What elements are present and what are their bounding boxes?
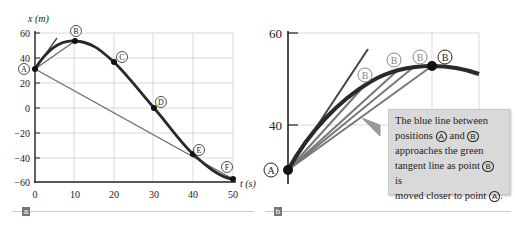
panel-a-rule xyxy=(12,211,254,212)
point-a-dot xyxy=(32,66,38,72)
y-tick: 0 xyxy=(25,103,30,114)
y-axis-label: x (m) xyxy=(27,13,49,25)
circled-a: A xyxy=(436,131,447,142)
svg-text:B: B xyxy=(391,55,398,66)
x-tick: 10 xyxy=(70,189,80,200)
panel-a-tag: a xyxy=(22,207,30,216)
point-e-label: E xyxy=(194,145,205,156)
svg-text:B: B xyxy=(73,27,78,36)
point-a-label: A xyxy=(19,64,30,75)
point-b-ghost-label: B xyxy=(387,53,401,67)
point-b-label: B xyxy=(438,50,452,64)
svg-text:E: E xyxy=(197,146,202,155)
y-tick: 60 xyxy=(20,28,30,39)
svg-text:F: F xyxy=(225,163,230,172)
y-tick: −60 xyxy=(14,177,30,188)
callout-line: tangent line as point B is xyxy=(395,159,503,189)
annotation-callout: The blue line between positions A and B … xyxy=(388,109,510,195)
point-f-dot xyxy=(230,176,236,182)
point-b-label: B xyxy=(71,26,82,37)
point-a-dot xyxy=(283,165,293,175)
svg-text:A: A xyxy=(21,65,27,74)
y-tick: −40 xyxy=(14,153,30,164)
point-b-dot xyxy=(72,38,78,44)
x-tick: 20 xyxy=(109,189,119,200)
panel-b-rule xyxy=(265,211,511,212)
y-tick: 40 xyxy=(20,53,30,64)
svg-text:D: D xyxy=(158,98,164,107)
x-axis-label: t (s) xyxy=(240,178,257,190)
point-c-label: C xyxy=(117,52,128,63)
svg-text:B: B xyxy=(442,52,449,63)
point-b-dot xyxy=(427,61,437,71)
svg-text:C: C xyxy=(119,53,124,62)
point-c-dot xyxy=(111,59,117,65)
circled-a: A xyxy=(489,191,500,202)
axes xyxy=(34,31,236,183)
y-tick: 20 xyxy=(20,78,30,89)
panel-a-chart: 60 40 20 0 −20 −40 −60 0 10 20 30 40 50 … xyxy=(0,0,260,231)
svg-text:B: B xyxy=(417,52,424,63)
point-b-ghost-label: B xyxy=(358,68,372,82)
x-tick: 0 xyxy=(33,189,38,200)
svg-text:B: B xyxy=(362,70,369,81)
point-b-ghost-label: B xyxy=(413,50,427,64)
y-tick: 40 xyxy=(269,118,282,133)
point-a-label: A xyxy=(264,163,278,177)
circled-b: B xyxy=(467,131,478,142)
x-tick: 30 xyxy=(149,189,159,200)
point-f-label: F xyxy=(222,162,233,173)
point-d-label: D xyxy=(156,97,167,108)
callout-line: positions A and B xyxy=(395,129,503,145)
callout-line: approaches the green xyxy=(395,144,503,159)
callout-pointer xyxy=(362,118,380,136)
x-tick: 40 xyxy=(188,189,198,200)
callout-line: The blue line between xyxy=(395,114,503,129)
y-tick: −20 xyxy=(14,128,30,139)
panel-b-tag: b xyxy=(274,207,282,216)
svg-text:A: A xyxy=(267,165,275,176)
callout-line: moved closer to point A. xyxy=(395,189,503,205)
x-tick: 50 xyxy=(228,189,238,200)
grid xyxy=(35,33,233,182)
y-tick: 60 xyxy=(269,26,282,41)
point-d-dot xyxy=(151,105,157,111)
circled-b: B xyxy=(482,161,493,172)
